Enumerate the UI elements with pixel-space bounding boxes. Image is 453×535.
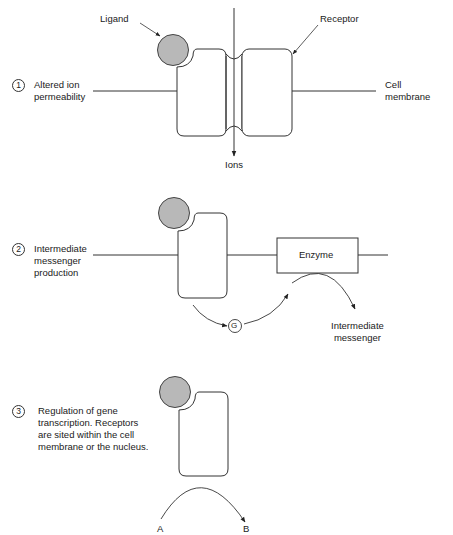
panel-3-title: Regulation of gene transcription. Recept…: [38, 405, 148, 453]
receptor-block-icon: [177, 49, 226, 136]
label-a: A: [157, 523, 163, 535]
ligand-circle-icon: [158, 35, 189, 66]
enzyme-label: Enzyme: [299, 249, 333, 261]
receptor-block-icon: [179, 392, 228, 476]
panel-3-number-badge: 3: [12, 405, 25, 418]
ligand-circle-icon: [160, 377, 191, 408]
panel-1-title: Altered ion permeability: [34, 79, 85, 103]
panel-2-title: Intermediate messenger production: [34, 243, 87, 279]
panel-1-graphic: [93, 8, 376, 156]
label-b: B: [243, 523, 249, 535]
ligand-label: Ligand: [100, 13, 129, 25]
panel-2-graphic: [93, 198, 388, 333]
panel-2-number-badge: 2: [12, 243, 25, 256]
receptor-pointer-arrow-icon: [293, 25, 318, 54]
ligand-circle-icon: [159, 198, 190, 229]
panel-3-graphic: [160, 377, 246, 523]
ligand-pointer-arrow-icon: [140, 23, 160, 36]
cell-membrane-label: Cell membrane: [385, 79, 430, 103]
receptor-block-icon: [178, 213, 227, 298]
enzyme-output-arrow-icon: [292, 273, 355, 309]
intermediate-messenger-label: Intermediate messenger: [331, 320, 384, 344]
panel-1-number-badge: 1: [12, 79, 25, 92]
receptor-block-right-icon: [242, 49, 292, 136]
a-to-b-arrow-icon: [161, 488, 245, 522]
receptor-to-g-arrow-icon: [193, 305, 227, 326]
g-to-enzyme-arrow-icon: [244, 294, 288, 324]
g-protein-label: G: [231, 320, 237, 332]
receptor-label: Receptor: [320, 13, 359, 25]
ions-label: Ions: [225, 159, 243, 171]
